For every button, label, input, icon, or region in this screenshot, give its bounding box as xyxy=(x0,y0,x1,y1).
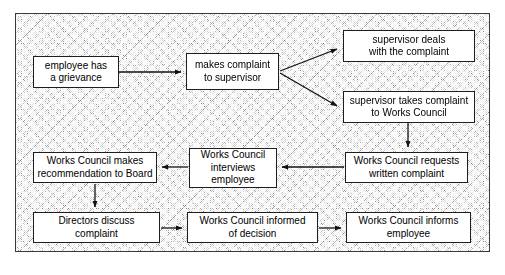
node-label-line2: interviews xyxy=(211,162,255,173)
node-wc-requests[interactable]: Works Council requests written complaint xyxy=(345,152,468,183)
node-wc-informed[interactable]: Works Council informed of decision xyxy=(187,212,318,243)
node-wc-interviews[interactable]: Works Council interviews employee xyxy=(189,148,277,188)
node-makes-complaint[interactable]: makes complaint to supervisor xyxy=(186,53,279,90)
node-label-line2: complaint xyxy=(75,228,118,239)
node-wc-informs-employee[interactable]: Works Council informs employee xyxy=(346,212,471,243)
node-label: employee has a grievance xyxy=(45,60,107,85)
node-employee-grievance[interactable]: employee has a grievance xyxy=(33,56,119,88)
node-label-line2: to Works Council xyxy=(371,107,446,118)
node-label: Works Council interviews employee xyxy=(201,149,265,187)
node-label-line2: a grievance xyxy=(50,72,102,83)
node-label-line2: with the complaint xyxy=(369,46,449,57)
node-label: supervisor takes complaint to Works Coun… xyxy=(350,95,468,120)
node-directors-discuss[interactable]: Directors discuss complaint xyxy=(33,212,160,243)
node-label: Directors discuss complaint xyxy=(58,215,134,240)
node-label-line1: makes complaint xyxy=(195,59,270,70)
flowchart-canvas: employee has a grievance makes complaint… xyxy=(0,0,505,275)
node-label-line2: to supervisor xyxy=(204,72,261,83)
node-supervisor-takes[interactable]: supervisor takes complaint to Works Coun… xyxy=(343,91,475,123)
node-label-line2: employee xyxy=(387,228,430,239)
node-wc-recommendation[interactable]: Works Council makes recommendation to Bo… xyxy=(33,152,157,183)
node-label-line2: recommendation to Board xyxy=(37,168,152,179)
node-label-line1: Works Council requests xyxy=(354,155,459,166)
node-label-line1: Works Council informs xyxy=(359,215,459,226)
node-supervisor-deals[interactable]: supervisor deals with the complaint xyxy=(343,30,475,62)
node-label: Works Council makes recommendation to Bo… xyxy=(37,155,152,180)
node-label-line1: supervisor deals xyxy=(373,34,446,45)
node-label: Works Council requests written complaint xyxy=(354,155,459,180)
node-label: Works Council informed of decision xyxy=(200,215,306,240)
node-label-line1: Directors discuss xyxy=(58,215,134,226)
node-label-line1: Works Council makes xyxy=(47,155,144,166)
node-label: supervisor deals with the complaint xyxy=(369,34,449,59)
node-label-line1: employee has xyxy=(45,60,107,71)
node-label-line1: Works Council xyxy=(201,149,265,160)
node-label-line2: written complaint xyxy=(369,168,444,179)
node-label-line1: Works Council informed xyxy=(200,215,306,226)
node-label-line2: of decision xyxy=(229,228,277,239)
node-label-line1: supervisor takes complaint xyxy=(350,95,468,106)
node-label-line3: employee xyxy=(211,174,254,185)
node-label: Works Council informs employee xyxy=(359,215,459,240)
node-label: makes complaint to supervisor xyxy=(195,59,270,84)
